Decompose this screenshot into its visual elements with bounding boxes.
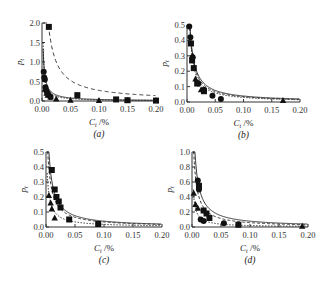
circle-marker <box>201 218 207 224</box>
square-marker <box>194 81 200 87</box>
y-tick-label: 1.0 <box>179 147 190 157</box>
x-tick-label: 0.15 <box>126 230 141 240</box>
fit-curve <box>193 152 307 225</box>
x-tick-label: 0.00 <box>180 105 195 115</box>
circle-marker <box>218 96 224 102</box>
square-marker <box>74 92 80 98</box>
y-tick-label: 0.5 <box>29 77 40 87</box>
fit-curve <box>43 23 155 96</box>
triangle-marker <box>49 206 55 212</box>
square-marker <box>188 40 194 46</box>
square-marker <box>113 96 119 102</box>
y-tick-label: 1.0 <box>29 57 40 67</box>
x-tick-label: 0.10 <box>92 104 107 114</box>
y-axis-label: pt <box>14 59 25 67</box>
triangle-marker <box>46 192 52 198</box>
x-tick-label: 0.15 <box>120 104 135 114</box>
square-marker <box>95 221 101 227</box>
triangle-marker <box>52 215 58 221</box>
panel-a: 0.00.51.01.52.00.000.050.100.150.20Ct /%… <box>14 18 163 140</box>
y-tick-label: 2.0 <box>29 18 40 28</box>
y-tick-label: 0.2 <box>33 192 44 202</box>
x-tick-label: 0.00 <box>39 230 54 240</box>
triangle-marker <box>47 200 53 206</box>
x-tick-label: 0.00 <box>35 104 50 114</box>
circle-marker <box>42 77 48 83</box>
x-axis-label: Ct /% <box>240 243 260 254</box>
y-axis-label: pt <box>159 60 170 68</box>
panel-caption: (c) <box>99 255 110 266</box>
circle-marker <box>221 220 227 226</box>
y-tick-label: 0.3 <box>174 51 185 61</box>
square-marker <box>49 167 55 173</box>
x-axis-label: Ct /% <box>94 243 114 254</box>
y-tick-label: 0.5 <box>33 147 44 157</box>
triangle-marker <box>189 52 195 58</box>
panel-c: 0.00.10.20.30.40.50.000.050.100.150.20Ct… <box>18 147 169 266</box>
y-tick-label: 0.4 <box>179 192 190 202</box>
panel-d: 0.00.20.40.60.81.00.000.050.100.150.20Ct… <box>164 147 315 266</box>
triangle-marker <box>192 75 198 81</box>
y-axis-label: pt <box>164 186 175 194</box>
square-marker <box>191 65 197 71</box>
triangle-marker <box>280 97 286 103</box>
panel-b: 0.00.10.20.30.40.50.000.050.100.150.20Ct… <box>159 20 307 141</box>
square-marker <box>206 215 212 221</box>
circle-marker <box>209 93 215 99</box>
x-tick-label: 0.10 <box>236 105 251 115</box>
x-tick-label: 0.20 <box>301 230 316 240</box>
circle-marker <box>195 178 201 184</box>
square-marker <box>66 217 72 223</box>
x-axis-label: Ct /% <box>234 118 254 129</box>
y-tick-label: 0.2 <box>179 207 190 217</box>
x-tick-label: 0.10 <box>243 230 258 240</box>
square-marker <box>52 187 58 193</box>
square-marker <box>56 199 62 205</box>
circle-marker <box>186 24 192 30</box>
x-tick-label: 0.05 <box>208 105 223 115</box>
circle-marker <box>41 69 47 75</box>
y-tick-label: 0.2 <box>174 66 185 76</box>
y-tick-label: 1.5 <box>29 38 40 48</box>
square-marker <box>46 24 52 30</box>
x-tick-label: 0.15 <box>264 105 279 115</box>
fit-curve <box>43 43 155 101</box>
fit-curve <box>47 152 161 224</box>
y-tick-label: 0.3 <box>33 177 44 187</box>
x-tick-label: 0.20 <box>293 105 308 115</box>
circle-marker <box>187 34 193 40</box>
x-tick-label: 0.15 <box>272 230 287 240</box>
x-tick-label: 0.20 <box>149 104 164 114</box>
x-tick-label: 0.20 <box>155 230 170 240</box>
x-tick-label: 0.05 <box>68 230 83 240</box>
figure-canvas: 0.00.51.01.52.00.000.050.100.150.20Ct /%… <box>0 0 329 287</box>
square-marker <box>189 57 195 63</box>
y-axis-label: pt <box>18 186 29 194</box>
fit-curve <box>43 49 155 100</box>
y-tick-label: 0.1 <box>33 207 44 217</box>
y-tick-label: 0.4 <box>174 35 185 45</box>
panel-caption: (b) <box>238 130 249 141</box>
y-tick-label: 0.1 <box>174 82 185 92</box>
x-axis-label: Ct /% <box>89 117 109 128</box>
x-tick-label: 0.00 <box>185 230 200 240</box>
square-marker <box>235 222 241 228</box>
x-tick-label: 0.05 <box>63 104 78 114</box>
panel-caption: (d) <box>244 255 255 266</box>
x-tick-label: 0.10 <box>97 230 112 240</box>
square-marker <box>196 183 202 189</box>
square-marker <box>58 205 64 211</box>
triangle-marker <box>53 96 59 102</box>
y-tick-label: 0.4 <box>33 162 44 172</box>
fit-curve <box>47 173 161 226</box>
panel-caption: (a) <box>93 129 104 140</box>
y-tick-label: 0.8 <box>179 162 190 172</box>
x-tick-label: 0.05 <box>214 230 229 240</box>
y-tick-label: 0.5 <box>174 20 185 30</box>
y-tick-label: 0.6 <box>179 177 190 187</box>
fit-curve <box>193 152 307 224</box>
fit-curve <box>47 152 161 224</box>
